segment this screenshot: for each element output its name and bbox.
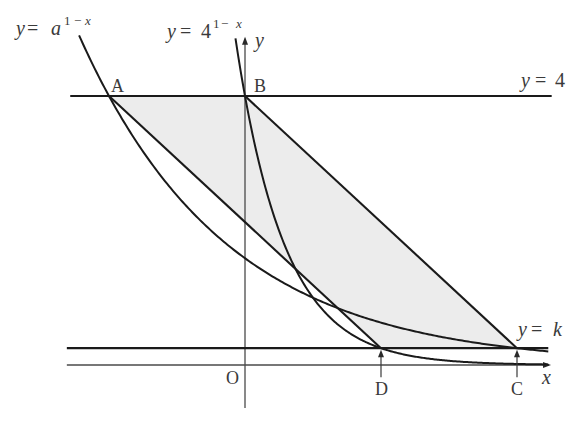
label-value-4: 4 bbox=[555, 69, 565, 91]
label-equals: = bbox=[535, 69, 546, 91]
label-base-4: 4 bbox=[201, 20, 211, 42]
point-b-label: B bbox=[254, 76, 266, 96]
label-value-k: k bbox=[553, 318, 563, 340]
label-equals: = bbox=[27, 17, 38, 39]
label-var-y: y bbox=[519, 69, 530, 92]
label-exponent-one: 1 bbox=[64, 13, 71, 28]
line-y4-label: y = 4 bbox=[519, 69, 565, 92]
point-d-arrow-icon bbox=[378, 350, 384, 358]
label-base-a: a bbox=[51, 17, 61, 39]
function-graph-figure: y = a 1 − x y = 4 1 − x y = 4 y = k y x … bbox=[0, 0, 582, 440]
point-a-label: A bbox=[111, 76, 124, 96]
label-var-y: y bbox=[165, 20, 176, 43]
y-axis-arrow-icon bbox=[242, 37, 248, 45]
label-exponent-one: 1 bbox=[213, 16, 220, 31]
origin-label: O bbox=[226, 368, 239, 388]
curve-4-label: y = 4 1 − x bbox=[165, 10, 242, 43]
label-exponent-minus: − bbox=[221, 16, 228, 31]
line-yk-label: y = k bbox=[516, 318, 563, 341]
label-exponent-minus: − bbox=[74, 13, 81, 28]
point-c-arrow-icon bbox=[514, 350, 520, 358]
y-axis-label: y bbox=[253, 29, 264, 52]
curve-a-label: y = a 1 − x bbox=[14, 7, 91, 40]
label-exponent-x: x bbox=[84, 13, 91, 28]
label-equals: = bbox=[531, 318, 542, 340]
point-d-label: D bbox=[375, 379, 388, 399]
label-var-y: y bbox=[14, 17, 25, 40]
label-equals: = bbox=[180, 20, 191, 42]
shaded-region-abcd bbox=[109, 96, 517, 348]
label-exponent-x: x bbox=[235, 16, 242, 31]
label-var-y: y bbox=[516, 318, 527, 341]
x-axis-label: x bbox=[541, 366, 551, 388]
point-c-label: C bbox=[511, 379, 523, 399]
